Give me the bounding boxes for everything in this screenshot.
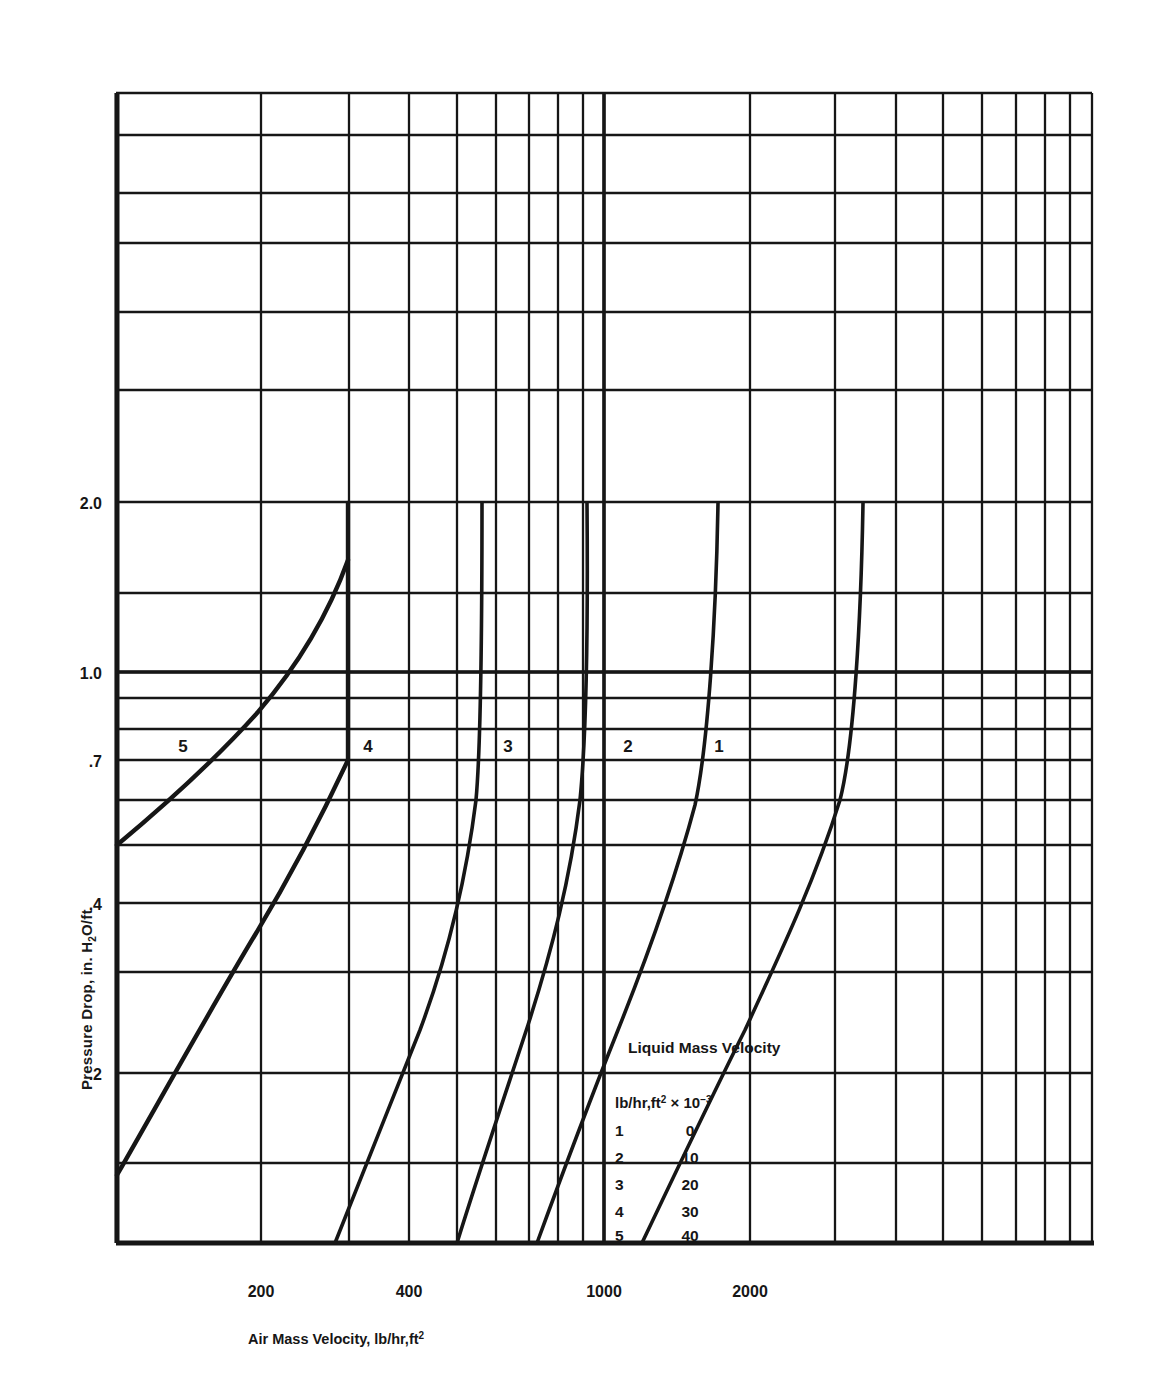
legend: Liquid Mass Velocity lb/hr,ft2 × 10−3 1 … bbox=[615, 1039, 781, 1244]
x-axis-title-sup: 2 bbox=[419, 1330, 425, 1341]
y-tick-2: 2.0 bbox=[80, 495, 102, 512]
curve-label-5: 5 bbox=[178, 737, 187, 756]
legend-value-5: 40 bbox=[681, 1227, 698, 1244]
curve-label-2: 2 bbox=[623, 737, 632, 756]
legend-row: 3 20 bbox=[615, 1176, 699, 1193]
major-decade-lines bbox=[116, 93, 1092, 1243]
curve-5 bbox=[117, 503, 348, 1175]
legend-value-2: 10 bbox=[681, 1149, 698, 1166]
y-axis-title-sub: 2 bbox=[87, 936, 98, 942]
legend-value-4: 30 bbox=[681, 1203, 698, 1220]
legend-key-5: 5 bbox=[615, 1227, 624, 1244]
x-tick-2000: 2000 bbox=[732, 1283, 768, 1300]
legend-title: Liquid Mass Velocity bbox=[628, 1039, 781, 1056]
chart-svg: 5 4 3 2 1 2.0 1.0 .7 .4 .2 200 400 1000 … bbox=[0, 0, 1152, 1393]
legend-units-exp: −3 bbox=[700, 1094, 712, 1105]
x-axis-title: Air Mass Velocity, lb/hr,ft2 bbox=[248, 1330, 425, 1347]
y-axis-title: Pressure Drop, in. H2O/ft bbox=[78, 909, 98, 1090]
curve-label-4: 4 bbox=[363, 737, 373, 756]
x-tick-400: 400 bbox=[396, 1283, 423, 1300]
x-tick-200: 200 bbox=[248, 1283, 275, 1300]
legend-key-4: 4 bbox=[615, 1203, 624, 1220]
x-axis-title-main: Air Mass Velocity, lb/hr,ft bbox=[248, 1331, 419, 1347]
legend-value-1: 0 bbox=[686, 1122, 695, 1139]
legend-units-mult-text: × 10 bbox=[671, 1094, 701, 1111]
x-tick-1000: 1000 bbox=[586, 1283, 622, 1300]
legend-value-3: 20 bbox=[681, 1176, 698, 1193]
y-tick-1: 1.0 bbox=[80, 665, 102, 682]
curve-label-3: 3 bbox=[503, 737, 512, 756]
curve-5-branch bbox=[117, 560, 348, 845]
y-axis-title-tail: O/ft bbox=[78, 909, 95, 936]
figure-root: Pressure Drop, in. H2O/ft bbox=[0, 0, 1152, 1393]
curve-3 bbox=[457, 503, 587, 1243]
legend-row: 1 0 bbox=[615, 1122, 694, 1139]
y-axis-title-main: Pressure Drop, in. H bbox=[78, 942, 95, 1090]
x-tick-labels: 200 400 1000 2000 bbox=[248, 1283, 768, 1300]
grid-group bbox=[116, 93, 1094, 1243]
legend-key-2: 2 bbox=[615, 1149, 624, 1166]
legend-key-1: 1 bbox=[615, 1122, 624, 1139]
legend-units: lb/hr,ft2 × 10−3 bbox=[615, 1094, 712, 1111]
y-tick-07: .7 bbox=[89, 753, 102, 770]
legend-units-prefix: lb/hr,ft bbox=[615, 1094, 661, 1111]
legend-key-3: 3 bbox=[615, 1176, 624, 1193]
curve-label-1: 1 bbox=[714, 737, 723, 756]
